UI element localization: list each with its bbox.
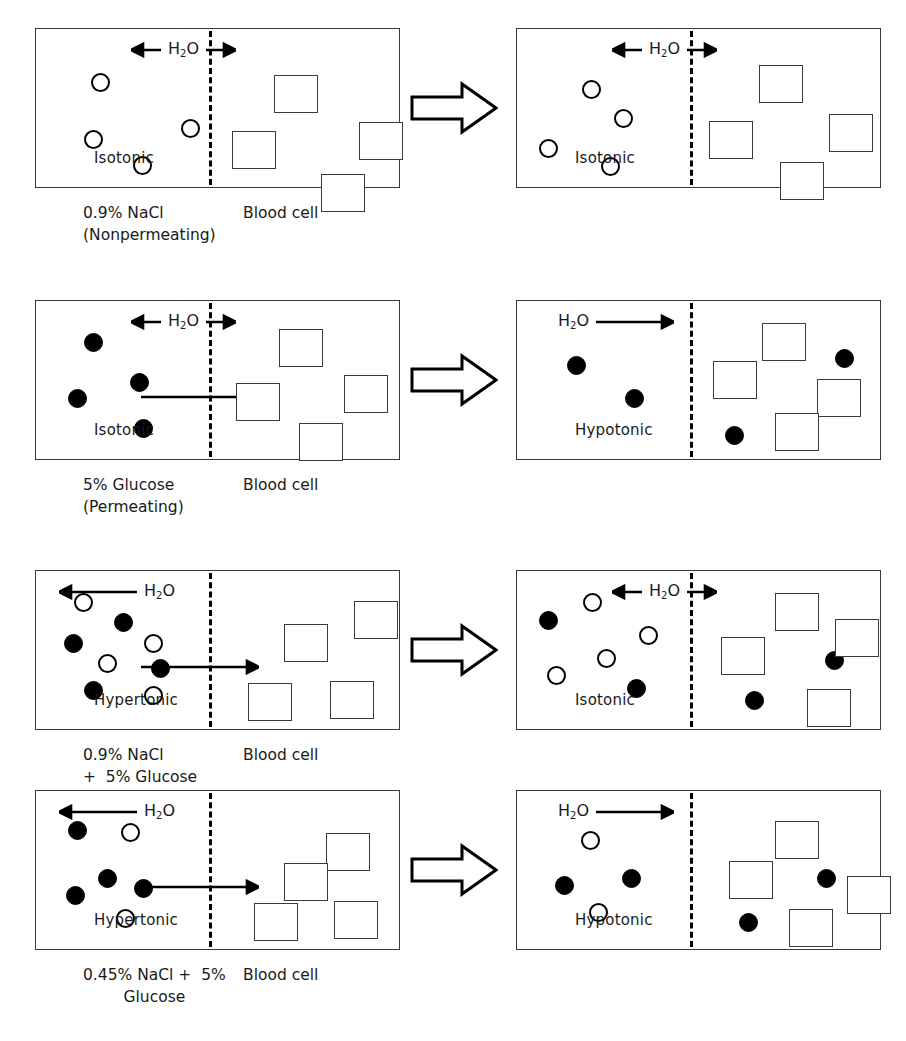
solute-particle-nonpermeating — [144, 634, 163, 653]
h2o-h: H — [649, 39, 661, 58]
water-flow-label: H2O — [59, 803, 175, 821]
h2o-o: O — [162, 581, 175, 600]
blood-cell — [817, 379, 861, 417]
panel-after: H2OHypotonic — [516, 790, 881, 950]
blood-cell — [330, 681, 374, 719]
solute-particle-permeating — [625, 389, 644, 408]
tonicity-label: Isotonic — [575, 691, 635, 709]
solute-particle-nonpermeating — [121, 823, 140, 842]
solute-particle-nonpermeating — [74, 593, 93, 612]
solute-particle-permeating — [151, 659, 170, 678]
water-arrow-right-icon — [596, 804, 674, 820]
blood-cell — [279, 329, 323, 367]
tonicity-label: Hypertonic — [94, 911, 178, 929]
solution-caption: 5% Glucose(Permeating) — [83, 474, 184, 519]
solute-particle-permeating — [745, 691, 764, 710]
water-arrow-right-icon — [596, 314, 674, 330]
solution-caption-line-1: 0.45% NaCl + 5% — [83, 964, 226, 986]
solute-particle-permeating — [725, 426, 744, 445]
blood-cell — [780, 162, 824, 200]
solute-particle-nonpermeating — [539, 139, 558, 158]
transition-arrow — [410, 352, 498, 412]
tonicity-label: Hypotonic — [575, 421, 653, 439]
solute-particle-permeating — [835, 349, 854, 368]
blood-cell-caption: Blood cell — [243, 964, 318, 986]
tonicity-label: Isotonic — [94, 149, 154, 167]
panel-before: H2OIsotonic — [35, 300, 400, 460]
h2o-text: H2O — [558, 313, 589, 331]
block-right-arrow-icon — [410, 352, 498, 408]
blood-cell — [248, 683, 292, 721]
h2o-text: H2O — [558, 803, 589, 821]
water-flow-label: H2O — [131, 41, 236, 59]
blood-cell — [709, 121, 753, 159]
water-flow-label: H2O — [612, 583, 717, 601]
block-right-arrow-icon — [410, 842, 498, 898]
panel-before: H2OHypertonic — [35, 790, 400, 950]
blood-cell — [274, 75, 318, 113]
blood-cell — [835, 619, 879, 657]
transition-arrow — [410, 842, 498, 902]
blood-cell — [775, 593, 819, 631]
solute-particle-permeating — [622, 869, 641, 888]
blood-cell — [326, 833, 370, 871]
water-flow-label: H2O — [558, 313, 674, 331]
blood-cell — [789, 909, 833, 947]
solute-particle-permeating — [68, 821, 87, 840]
water-arrow-left-icon — [131, 42, 161, 58]
solute-particle-permeating — [114, 613, 133, 632]
h2o-o: O — [667, 581, 680, 600]
solute-particle-nonpermeating — [547, 666, 566, 685]
cell-membrane — [690, 793, 693, 947]
solute-particle-permeating — [539, 611, 558, 630]
water-arrow-left-icon — [612, 42, 642, 58]
solution-caption-line-1: 0.9% NaCl — [83, 202, 216, 224]
h2o-o: O — [667, 39, 680, 58]
solute-particle-permeating — [130, 373, 149, 392]
h2o-text: H2O — [649, 41, 680, 59]
solute-particle-nonpermeating — [582, 80, 601, 99]
blood-cell — [729, 861, 773, 899]
water-arrow-right-icon — [687, 42, 717, 58]
blood-cell — [713, 361, 757, 399]
water-arrow-right-icon — [206, 42, 236, 58]
transition-arrow — [410, 80, 498, 140]
solution-caption: 0.9% NaCl(Nonpermeating) — [83, 202, 216, 247]
water-flow-label: H2O — [612, 41, 717, 59]
blood-cell — [775, 413, 819, 451]
panel-before: H2OHypertonic — [35, 570, 400, 730]
h2o-h: H — [558, 311, 570, 330]
blood-cell — [321, 174, 365, 212]
solution-caption: 0.9% NaCl+ 5% Glucose — [83, 744, 197, 789]
h2o-o: O — [186, 311, 199, 330]
water-arrow-left-icon — [131, 314, 161, 330]
blood-cell — [232, 131, 276, 169]
water-flow-label: H2O — [131, 313, 236, 331]
water-arrow-left-icon — [59, 584, 137, 600]
cell-membrane — [209, 573, 212, 727]
solute-permeation-arrow — [141, 879, 259, 899]
blood-cell — [762, 323, 806, 361]
h2o-text: H2O — [168, 41, 199, 59]
blood-cell — [354, 601, 398, 639]
h2o-text: H2O — [144, 803, 175, 821]
transition-arrow — [410, 622, 498, 682]
blood-cell — [721, 637, 765, 675]
solution-caption-line-2: (Nonpermeating) — [83, 224, 216, 246]
solute-particle-nonpermeating — [581, 831, 600, 850]
solution-caption-line-2: Glucose — [83, 986, 226, 1008]
panel-after: H2OHypotonic — [516, 300, 881, 460]
blood-cell — [284, 624, 328, 662]
water-arrow-left-icon — [59, 804, 137, 820]
solute-particle-permeating — [555, 876, 574, 895]
h2o-o: O — [576, 311, 589, 330]
tonicity-label: Hypertonic — [94, 691, 178, 709]
solution-caption-line-1: 0.9% NaCl — [83, 744, 197, 766]
blood-cell — [299, 423, 343, 461]
solute-particle-permeating — [739, 913, 758, 932]
blood-cell — [359, 122, 403, 160]
water-flow-label: H2O — [558, 803, 674, 821]
solute-particle-nonpermeating — [597, 649, 616, 668]
block-right-arrow-icon — [410, 622, 498, 678]
solute-particle-permeating — [134, 879, 153, 898]
